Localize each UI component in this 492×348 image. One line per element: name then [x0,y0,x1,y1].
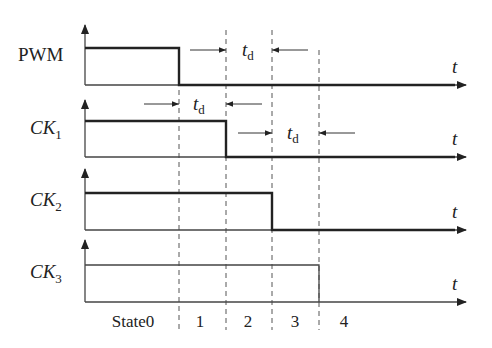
dead-time-label: td [287,122,299,146]
time-axis-label: t [452,56,458,77]
state-label-4: 4 [340,312,349,331]
state-label-0: State0 [112,312,155,331]
state-labels: State01234 [112,312,349,331]
waveform [85,265,319,302]
time-axis-label: t [452,273,458,294]
signal-ck2: tCK2 [30,169,466,230]
state-label-2: 2 [244,312,253,331]
dead-time-label: td [193,93,205,117]
time-axis-label: t [452,201,458,222]
dead-time-label: td [242,39,254,63]
signal-label: CK3 [30,261,62,286]
time-axis-label: t [452,128,458,149]
state-label-1: 1 [196,312,205,331]
signal-label: CK1 [30,117,62,142]
dead-time-annotation-2: td [144,93,262,117]
dead-time-annotations: tdtdtd [144,39,355,146]
timing-diagram-canvas: tPWMtCK1tCK2tCK3 tdtdtd State01234 [0,0,492,348]
waveform [85,121,455,157]
signal-ck1: tCK1 [30,100,466,157]
signal-waveforms: tPWMtCK1tCK2tCK3 [18,25,466,302]
timing-diagram: tPWMtCK1tCK2tCK3 tdtdtd State01234 [0,0,492,348]
signal-label: CK2 [30,189,62,214]
signal-ck3: tCK3 [30,240,466,302]
state-boundaries [179,30,319,330]
state-label-3: 3 [291,312,300,331]
dead-time-annotation-1: td [190,39,308,63]
signal-label: PWM [18,44,64,65]
dead-time-annotation-3: td [238,122,355,146]
waveform [85,48,455,85]
waveform [85,193,455,230]
